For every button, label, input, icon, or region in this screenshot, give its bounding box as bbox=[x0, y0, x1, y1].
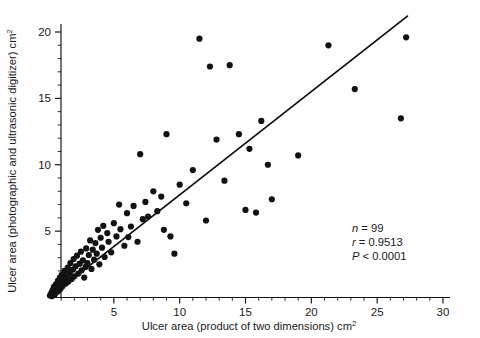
data-point bbox=[130, 203, 136, 209]
y-tick-label: 10 bbox=[38, 159, 51, 171]
data-point bbox=[242, 207, 248, 213]
scatter-plot-figure: 51015202530 5101520 Ulcer area (product … bbox=[0, 0, 480, 338]
data-point bbox=[108, 249, 114, 255]
data-point bbox=[96, 261, 102, 267]
x-tick-label: 20 bbox=[305, 306, 318, 318]
x-tick-label: 15 bbox=[239, 306, 252, 318]
data-point bbox=[113, 233, 119, 239]
data-point bbox=[87, 237, 93, 243]
data-point bbox=[94, 251, 100, 257]
data-point bbox=[325, 42, 331, 48]
data-point bbox=[258, 118, 264, 124]
data-point bbox=[227, 62, 233, 68]
x-axis-title: Ulcer area (product of two dimensions) c… bbox=[142, 319, 356, 332]
data-point bbox=[171, 251, 177, 257]
annotation-r: r = 0.9513 bbox=[352, 236, 403, 248]
data-point bbox=[265, 162, 271, 168]
data-point bbox=[88, 266, 94, 272]
y-axis-title: Ulcer area (photographic and ultrasonic … bbox=[5, 29, 18, 293]
data-point bbox=[167, 233, 173, 239]
data-point bbox=[83, 245, 89, 251]
data-point bbox=[253, 209, 259, 215]
data-point bbox=[269, 196, 275, 202]
data-point bbox=[91, 257, 97, 263]
data-point bbox=[154, 208, 160, 214]
data-point bbox=[128, 223, 134, 229]
y-axis-ticks bbox=[55, 32, 61, 284]
data-point bbox=[84, 260, 90, 266]
data-point bbox=[158, 194, 164, 200]
data-point bbox=[213, 136, 219, 142]
data-point bbox=[105, 239, 111, 245]
annotation-p: P < 0.0001 bbox=[352, 250, 406, 262]
chart-canvas: 51015202530 5101520 Ulcer area (product … bbox=[0, 0, 480, 338]
data-point bbox=[81, 274, 87, 280]
data-point bbox=[352, 86, 358, 92]
y-axis-tick-labels: 5101520 bbox=[38, 26, 51, 237]
data-point bbox=[98, 235, 104, 241]
data-point bbox=[236, 131, 242, 137]
data-point bbox=[140, 216, 146, 222]
data-point bbox=[99, 245, 105, 251]
data-point bbox=[190, 167, 196, 173]
data-point bbox=[203, 217, 209, 223]
x-tick-label: 5 bbox=[111, 306, 117, 318]
data-point bbox=[207, 63, 213, 69]
x-tick-label: 10 bbox=[173, 306, 186, 318]
x-axis-tick-labels: 51015202530 bbox=[111, 306, 450, 318]
data-point bbox=[246, 146, 252, 152]
statistics-annotation: n = 99r = 0.9513P < 0.0001 bbox=[352, 222, 406, 262]
y-tick-label: 20 bbox=[38, 26, 51, 38]
data-point bbox=[95, 227, 101, 233]
data-point bbox=[137, 151, 143, 157]
data-point bbox=[142, 199, 148, 205]
data-point bbox=[221, 178, 227, 184]
data-point bbox=[161, 227, 167, 233]
data-point bbox=[150, 188, 156, 194]
data-point bbox=[121, 243, 127, 249]
y-tick-label: 15 bbox=[38, 92, 51, 104]
annotation-n: n = 99 bbox=[352, 222, 383, 234]
data-point bbox=[116, 201, 122, 207]
x-tick-label: 25 bbox=[371, 306, 384, 318]
data-point bbox=[145, 213, 151, 219]
data-point bbox=[134, 239, 140, 245]
data-point bbox=[403, 34, 409, 40]
data-point bbox=[92, 240, 98, 246]
data-point bbox=[78, 249, 84, 255]
y-tick-label: 5 bbox=[45, 225, 51, 237]
data-point bbox=[125, 234, 131, 240]
x-tick-label: 30 bbox=[437, 306, 450, 318]
data-point bbox=[124, 210, 130, 216]
data-point bbox=[86, 252, 92, 258]
data-point bbox=[111, 220, 117, 226]
data-point bbox=[183, 200, 189, 206]
data-point bbox=[102, 254, 108, 260]
data-point bbox=[104, 230, 110, 236]
data-point bbox=[398, 115, 404, 121]
x-axis-ticks bbox=[61, 298, 443, 304]
data-point bbox=[163, 131, 169, 137]
data-point bbox=[295, 152, 301, 158]
data-point bbox=[196, 36, 202, 42]
data-point bbox=[100, 223, 106, 229]
data-point bbox=[177, 182, 183, 188]
data-point bbox=[117, 226, 123, 232]
